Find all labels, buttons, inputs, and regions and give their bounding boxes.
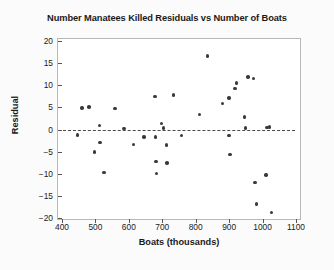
x-tick-mark xyxy=(196,219,197,223)
x-axis-label: Boats (thousands) xyxy=(57,237,301,247)
y-tick-mark xyxy=(58,63,62,64)
x-tick-mark xyxy=(263,219,264,223)
y-tick-mark xyxy=(58,152,62,153)
y-tick-label: 5 xyxy=(27,102,53,112)
residual-plot-figure: Number Manatees Killed Residuals vs Numb… xyxy=(0,0,334,270)
y-tick-mark xyxy=(58,85,62,86)
y-tick-mark xyxy=(58,107,62,108)
y-tick-label: −15 xyxy=(27,191,53,201)
x-tick-mark xyxy=(95,219,96,223)
y-tick-mark xyxy=(58,196,62,197)
x-tick-mark xyxy=(296,219,297,223)
x-tick-mark xyxy=(129,219,130,223)
x-tick-mark xyxy=(62,219,63,223)
y-tick-label: 0 xyxy=(27,125,53,135)
y-tick-label: −5 xyxy=(27,147,53,157)
y-tick-label: 15 xyxy=(27,58,53,68)
y-tick-label: −10 xyxy=(27,169,53,179)
x-tick-label: 1100 xyxy=(276,222,316,232)
plot-area xyxy=(57,38,301,220)
chart-title: Number Manatees Killed Residuals vs Numb… xyxy=(0,13,334,23)
x-tick-mark xyxy=(229,219,230,223)
x-tick-mark xyxy=(162,219,163,223)
y-tick-label: 20 xyxy=(27,36,53,46)
y-tick-mark xyxy=(58,174,62,175)
y-axis-label: Residual xyxy=(10,80,20,150)
y-tick-mark xyxy=(58,130,62,131)
y-tick-label: 10 xyxy=(27,80,53,90)
y-tick-mark xyxy=(58,41,62,42)
